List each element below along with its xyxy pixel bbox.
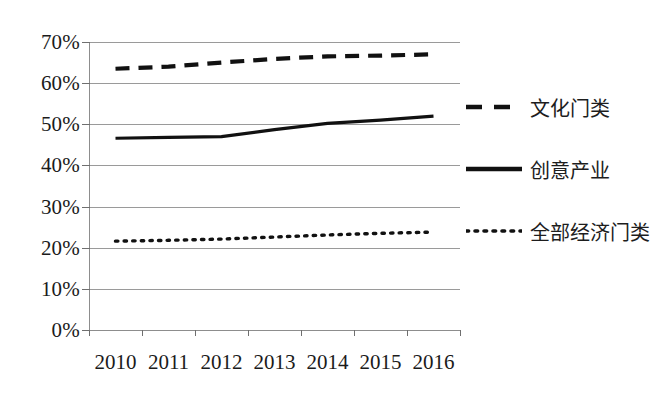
legend-item-1[interactable]: 文化门类 [466, 92, 610, 122]
y-axis-tick-label: 40% [8, 155, 80, 176]
x-axis-tick [301, 330, 302, 336]
x-axis-tick-label: 2011 [148, 352, 189, 373]
legend-label: 全部经济门类 [530, 217, 650, 246]
x-axis-tick [407, 330, 408, 336]
y-axis-tick-label: 70% [8, 32, 80, 53]
y-axis-tick-label: 30% [8, 196, 80, 217]
series-line-1 [116, 54, 434, 68]
x-axis-tick-label: 2014 [307, 352, 349, 373]
chart-legend: 文化门类创意产业全部经济门类 [466, 92, 666, 267]
legend-label: 文化门类 [530, 93, 610, 122]
y-axis-tick-label: 50% [8, 114, 80, 135]
legend-line-sample-icon [466, 102, 522, 112]
y-axis-tick-label: 10% [8, 278, 80, 299]
x-axis-tick [460, 330, 461, 336]
y-axis-tick-label: 60% [8, 73, 80, 94]
series-lines [89, 42, 460, 330]
y-axis-tick-labels: 0%10%20%30%40%50%60%70% [0, 0, 80, 403]
legend-line-sample-icon [466, 164, 522, 174]
x-axis-tick-label: 2010 [95, 352, 137, 373]
legend-item-3[interactable]: 全部经济门类 [466, 216, 650, 246]
x-axis-line [89, 330, 460, 331]
y-axis-tick-label: 20% [8, 237, 80, 258]
legend-item-2[interactable]: 创意产业 [466, 154, 610, 184]
y-axis-tick-label: 0% [8, 320, 80, 341]
x-axis-tick [354, 330, 355, 336]
legend-label: 创意产业 [530, 155, 610, 184]
x-axis-tick [195, 330, 196, 336]
x-axis-tick [142, 330, 143, 336]
x-axis-tick-label: 2015 [360, 352, 402, 373]
x-axis-tick-label: 2016 [413, 352, 455, 373]
chart-page: 0%10%20%30%40%50%60%70% 2010201120122013… [0, 0, 670, 403]
x-axis-tick-label: 2013 [254, 352, 296, 373]
x-axis-tick [248, 330, 249, 336]
x-axis-tick-label: 2012 [201, 352, 243, 373]
series-line-3 [116, 232, 434, 241]
plot-area [89, 42, 460, 330]
legend-line-sample-icon [466, 226, 522, 236]
series-line-2 [116, 116, 434, 138]
x-axis-tick [89, 330, 90, 336]
